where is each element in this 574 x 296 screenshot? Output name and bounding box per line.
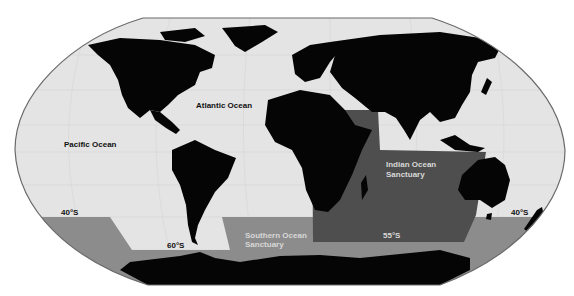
indian-sanctuary-label-line2: Sanctuary — [386, 170, 425, 180]
pacific-ocean-label: Pacific Ocean — [64, 140, 116, 150]
latitude-60s-label: 60°S — [167, 241, 184, 251]
latitude-55s-label: 55°S — [383, 231, 400, 241]
atlantic-ocean-label: Atlantic Ocean — [196, 101, 252, 111]
indian-sanctuary-label-line1: Indian Ocean — [386, 160, 436, 170]
latitude-40s-west-label: 40°S — [61, 208, 78, 218]
latitude-40s-east-label: 40°S — [511, 208, 528, 218]
southern-sanctuary-label-line2: Sanctuary — [245, 240, 284, 250]
